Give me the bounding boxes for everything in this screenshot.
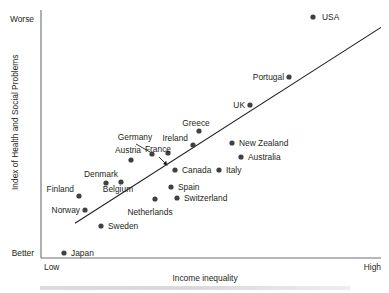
point-marker — [98, 223, 103, 228]
point-label: Canada — [182, 165, 212, 175]
point-marker — [152, 196, 157, 201]
scatter-chart: Worse Better Low High Index of Health an… — [0, 0, 389, 293]
point-label: Sweden — [108, 221, 139, 231]
point-label: Greece — [182, 118, 210, 128]
data-point-usa[interactable]: USA — [310, 12, 339, 22]
point-label: Netherlands — [127, 207, 172, 217]
data-point-finland[interactable]: Finland — [47, 184, 82, 199]
chart-axes — [41, 10, 381, 258]
point-marker — [247, 102, 252, 107]
data-point-sweden[interactable]: Sweden — [98, 221, 138, 231]
data-points: USAPortugalUKGreeceNew ZealandIrelandGer… — [47, 12, 340, 258]
point-label: Italy — [226, 165, 242, 175]
point-label: Austria — [115, 145, 141, 155]
x-axis-title: Income inequality — [172, 273, 238, 283]
point-label: Japan — [71, 248, 94, 258]
point-marker — [168, 184, 173, 189]
chart-svg: Worse Better Low High Index of Health an… — [0, 0, 389, 293]
data-point-japan[interactable]: Japan — [61, 248, 94, 258]
point-marker — [174, 195, 179, 200]
point-label: Spain — [178, 182, 200, 192]
data-point-netherlands[interactable]: Netherlands — [127, 196, 172, 217]
point-marker — [82, 207, 87, 212]
point-label: UK — [233, 100, 245, 110]
point-label: Switzerland — [184, 193, 228, 203]
point-marker — [229, 140, 234, 145]
data-point-switzerland[interactable]: Switzerland — [174, 193, 227, 203]
point-marker — [61, 250, 66, 255]
point-marker — [238, 154, 243, 159]
point-label: Ireland — [162, 133, 188, 143]
data-point-uk[interactable]: UK — [233, 100, 252, 110]
data-point-portugal[interactable]: Portugal — [253, 72, 292, 82]
data-point-australia[interactable]: Australia — [238, 152, 281, 162]
point-label: USA — [322, 12, 340, 22]
leader-line-france — [159, 157, 167, 165]
point-marker — [190, 142, 195, 147]
point-marker — [76, 193, 81, 198]
x-axis-left-anchor-label: Low — [44, 262, 60, 272]
point-label: New Zealand — [239, 138, 289, 148]
y-axis-top-anchor-label: Worse — [10, 14, 34, 24]
point-marker — [196, 128, 201, 133]
point-label: France — [145, 144, 171, 154]
point-label: Belgium — [103, 184, 133, 194]
point-label: Portugal — [253, 72, 284, 82]
y-axis-title: Index of Health and Social Problems — [10, 55, 20, 190]
x-axis-right-anchor-label: High — [364, 262, 382, 272]
data-point-norway[interactable]: Norway — [52, 205, 88, 215]
data-point-spain[interactable]: Spain — [168, 182, 199, 192]
point-label: Australia — [248, 152, 281, 162]
point-marker — [286, 74, 291, 79]
point-marker — [310, 14, 315, 19]
point-label: Denmark — [84, 169, 119, 179]
data-point-canada[interactable]: Canada — [172, 165, 211, 175]
data-point-france[interactable]: France — [145, 144, 171, 156]
clipped-caption-artifact — [40, 286, 350, 290]
point-marker — [172, 167, 177, 172]
point-marker — [128, 157, 133, 162]
data-point-new-zealand[interactable]: New Zealand — [229, 138, 288, 148]
point-marker — [216, 167, 221, 172]
data-point-greece[interactable]: Greece — [182, 118, 210, 134]
data-point-austria[interactable]: Austria — [115, 145, 141, 163]
point-label: Germany — [118, 132, 153, 142]
data-point-italy[interactable]: Italy — [216, 165, 242, 175]
point-label: Finland — [47, 184, 75, 194]
point-label: Norway — [52, 205, 81, 215]
y-axis-bottom-anchor-label: Better — [12, 248, 35, 258]
